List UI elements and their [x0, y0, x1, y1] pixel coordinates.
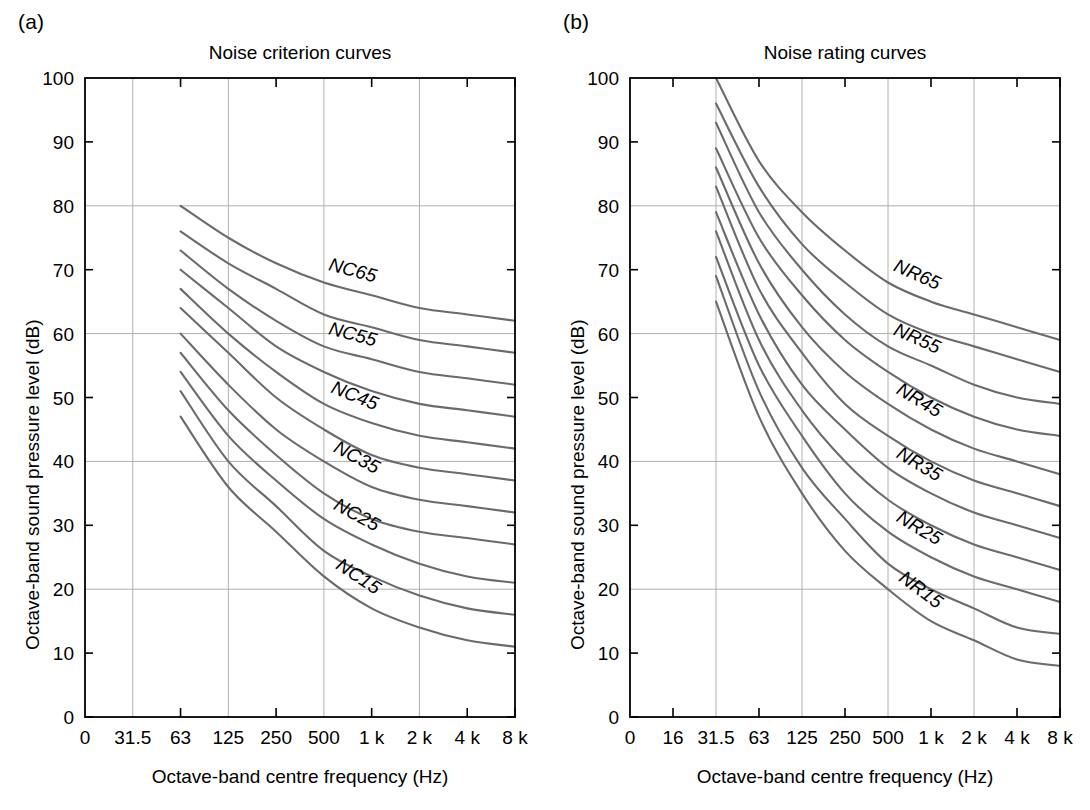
- panel-a: (a) Noise criterion curves NC65NC55NC45N…: [0, 0, 545, 810]
- x-axis-label-b: Octave-band centre frequency (Hz): [630, 766, 1060, 788]
- y-tick-label: 70: [598, 260, 619, 281]
- curve-NC35: [181, 334, 515, 513]
- x-tick-label: 4 k: [455, 727, 481, 748]
- curve-label-NC45: NC45: [329, 377, 382, 415]
- curve-label-NR25: NR25: [893, 506, 946, 549]
- curve-label-NR45: NR45: [893, 378, 946, 421]
- y-tick-label: 30: [53, 515, 74, 536]
- x-tick-label: 16: [662, 727, 683, 748]
- x-tick-label: 8 k: [502, 727, 528, 748]
- y-tick-label: 30: [598, 515, 619, 536]
- y-tick-label: 90: [598, 132, 619, 153]
- curve-label-NR35: NR35: [893, 442, 946, 485]
- x-tick-label: 31.5: [698, 727, 735, 748]
- y-tick-label: 40: [598, 451, 619, 472]
- y-axis-label-b: Octave-band sound pressure level (dB): [567, 319, 589, 650]
- y-tick-label: 70: [53, 260, 74, 281]
- curve-label-NC35: NC35: [331, 436, 384, 478]
- x-tick-label: 1 k: [359, 727, 385, 748]
- x-tick-label: 63: [748, 727, 769, 748]
- y-tick-label: 0: [63, 707, 74, 728]
- y-tick-label: 80: [598, 196, 619, 217]
- y-tick-label: 50: [598, 388, 619, 409]
- x-axis-label-a: Octave-band centre frequency (Hz): [85, 766, 515, 788]
- y-tick-label: 20: [53, 579, 74, 600]
- panel-b: (b) Noise rating curves NR65NR55NR45NR35…: [545, 0, 1090, 810]
- x-tick-label: 4 k: [1004, 727, 1030, 748]
- x-tick-label: 1 k: [918, 727, 944, 748]
- y-tick-label: 80: [53, 196, 74, 217]
- y-tick-label: 60: [53, 324, 74, 345]
- x-tick-label: 250: [829, 727, 861, 748]
- figure-root: (a) Noise criterion curves NC65NC55NC45N…: [0, 0, 1090, 810]
- y-tick-label: 90: [53, 132, 74, 153]
- x-tick-label: 63: [170, 727, 191, 748]
- x-tick-label: 2 k: [407, 727, 433, 748]
- x-tick-label: 0: [625, 727, 636, 748]
- curve-NC45: [181, 289, 515, 449]
- y-tick-label: 60: [598, 324, 619, 345]
- x-tick-label: 125: [212, 727, 244, 748]
- curve-label-NC55: NC55: [327, 318, 380, 351]
- x-tick-label: 8 k: [1047, 727, 1073, 748]
- chart-a: NC65NC55NC45NC35NC25NC150102030405060708…: [0, 0, 545, 810]
- x-tick-label: 125: [786, 727, 818, 748]
- y-tick-label: 0: [608, 707, 619, 728]
- x-tick-label: 250: [260, 727, 292, 748]
- x-tick-label: 500: [308, 727, 340, 748]
- x-tick-label: 31.5: [114, 727, 151, 748]
- curve-label-NC15: NC15: [333, 554, 385, 599]
- y-tick-label: 100: [587, 68, 619, 89]
- y-tick-label: 20: [598, 579, 619, 600]
- curve-label-NC65: NC65: [327, 254, 380, 287]
- y-axis-label-a: Octave-band sound pressure level (dB): [22, 319, 44, 650]
- x-tick-label: 500: [872, 727, 904, 748]
- chart-b: NR65NR55NR45NR35NR25NR150102030405060708…: [545, 0, 1090, 810]
- curve-label-NC25: NC25: [331, 494, 384, 536]
- x-tick-label: 2 k: [961, 727, 987, 748]
- x-tick-label: 0: [80, 727, 91, 748]
- y-tick-label: 10: [53, 643, 74, 664]
- y-tick-label: 40: [53, 451, 74, 472]
- y-tick-label: 10: [598, 643, 619, 664]
- y-tick-label: 100: [42, 68, 74, 89]
- y-tick-label: 50: [53, 388, 74, 409]
